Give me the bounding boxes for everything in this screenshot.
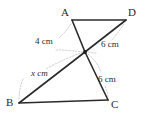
triangle-edges-group [19,20,126,103]
vertex-label-D: D [128,6,136,18]
measurement-label-EC: 6 cm [98,74,116,84]
leader-line-label6-upper-to-intersection [87,52,96,53]
edge-AE [72,20,85,52]
intersection-point-dot [83,50,87,54]
geometry-figure: A D B C 4 cm 6 cm 6 cm x cm [0,0,150,116]
leader-line-intersection-to-labelx [46,52,83,69]
vertex-label-A: A [61,6,69,18]
measurement-label-BE: x cm [30,68,48,78]
vertex-label-C: C [111,98,118,110]
leader-line-label4-to-intersection [56,50,82,52]
edge-BC [19,100,108,103]
measurement-label-DE: 6 cm [101,39,119,49]
leader-line-labelx-to-b [19,79,23,100]
edge-BE [19,52,85,103]
leader-line-a-to-label4 [59,24,71,38]
geometry-canvas: A D B C 4 cm 6 cm 6 cm x cm [0,0,150,116]
measurement-label-AE: 4 cm [35,36,53,46]
vertex-label-B: B [6,96,13,108]
